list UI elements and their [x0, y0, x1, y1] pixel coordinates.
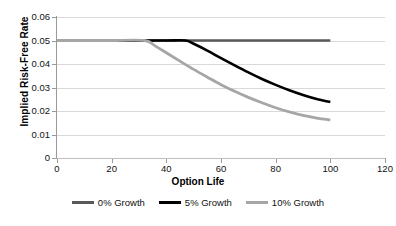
- y-axis-tick-label: 0.04: [18, 59, 50, 69]
- x-axis-tick-label: 100: [310, 164, 350, 174]
- y-axis-tick-labels: 00.010.020.030.040.050.06: [18, 0, 50, 226]
- x-axis-tick-label: 0: [37, 164, 77, 174]
- x-axis-title: Option Life: [0, 176, 396, 187]
- x-axis-tickmark: [166, 159, 167, 163]
- y-axis-tickmark: [52, 64, 57, 65]
- plot-area: [57, 17, 385, 158]
- y-axis-tickmark: [52, 88, 57, 89]
- x-axis-tick-label: 20: [92, 164, 132, 174]
- x-axis-tick-label: 40: [146, 164, 186, 174]
- legend-line-icon: [246, 201, 268, 204]
- x-axis-tickmark: [385, 159, 386, 163]
- y-axis-tickmark: [52, 41, 57, 42]
- y-axis-tick-label: 0.06: [18, 12, 50, 22]
- series-line: [57, 40, 330, 102]
- x-axis-tickmark: [330, 159, 331, 163]
- x-axis-tick-label: 60: [201, 164, 241, 174]
- series-line: [57, 40, 330, 120]
- y-axis-tick-label: 0.05: [18, 36, 50, 46]
- legend-item[interactable]: 0% Growth: [72, 198, 145, 208]
- y-axis-tick-label: 0: [18, 153, 50, 163]
- x-axis-tickmark: [112, 159, 113, 163]
- y-axis-tick-label: 0.01: [18, 130, 50, 140]
- legend-label: 10% Growth: [272, 198, 324, 208]
- y-axis-tickmark: [52, 17, 57, 18]
- x-axis-tickmark: [57, 159, 58, 163]
- legend-label: 5% Growth: [185, 198, 232, 208]
- y-axis-tickmark: [52, 135, 57, 136]
- chart-container: Implied Risk-Free Rate 00.010.020.030.04…: [0, 0, 396, 226]
- legend-item[interactable]: 5% Growth: [159, 198, 232, 208]
- x-axis-tick-label: 80: [256, 164, 296, 174]
- legend-line-icon: [72, 201, 94, 204]
- series-lines-svg: [57, 17, 385, 158]
- legend-label: 0% Growth: [98, 198, 145, 208]
- y-axis-tick-label: 0.03: [18, 83, 50, 93]
- legend-line-icon: [159, 201, 181, 204]
- x-axis-tick-label: 120: [365, 164, 396, 174]
- legend-item[interactable]: 10% Growth: [246, 198, 324, 208]
- x-axis-tickmark: [221, 159, 222, 163]
- chart-legend: 0% Growth5% Growth10% Growth: [0, 198, 396, 208]
- y-axis-tickmark: [52, 111, 57, 112]
- y-axis-tick-label: 0.02: [18, 106, 50, 116]
- x-axis-tickmark: [276, 159, 277, 163]
